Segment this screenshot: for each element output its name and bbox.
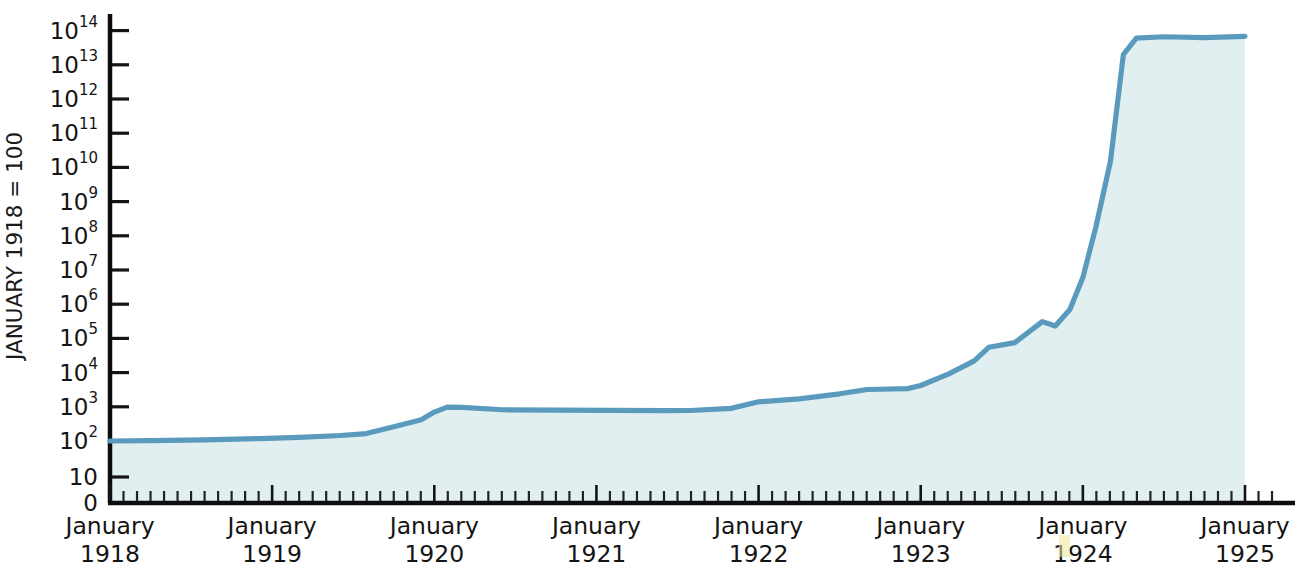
y-axis	[110, 14, 129, 503]
y-tick-label: 106	[59, 286, 98, 317]
y-tick-label: 105	[59, 320, 98, 351]
series-area-german-price-index	[110, 36, 1245, 503]
x-tick-labels: January1918January1919January1920January…	[63, 512, 1289, 568]
x-tick-label-year: 1920	[404, 540, 464, 568]
scan-artifact-tint	[1059, 535, 1070, 557]
x-tick-label-month: January	[550, 512, 641, 540]
y-tick-label: 1012	[50, 81, 98, 112]
y-tick-label: 1010	[50, 149, 98, 180]
x-tick-label-month: January	[388, 512, 479, 540]
x-tick-label-year: 1921	[567, 540, 627, 568]
x-tick-label-year: 1925	[1215, 540, 1275, 568]
y-axis-title: JANUARY 1918 = 100	[2, 132, 27, 362]
x-tick-label-month: January	[1198, 512, 1289, 540]
y-tick-label: 102	[59, 423, 98, 454]
y-tick-label: 109	[59, 183, 98, 214]
x-tick-label-year: 1923	[891, 540, 951, 568]
x-tick-label-year: 1922	[729, 540, 789, 568]
series-area-group	[110, 36, 1245, 503]
y-tick-label: 1011	[50, 115, 98, 146]
y-tick-labels: 0101021031041051061071081091010101110121…	[50, 12, 98, 515]
x-tick-label-year: 1918	[80, 540, 140, 568]
y-tick-label: 1013	[50, 46, 98, 77]
x-tick-label-year: 1919	[242, 540, 302, 568]
y-tick-label: 103	[59, 388, 98, 419]
y-tick-label: 10	[69, 464, 98, 490]
x-tick-label-month: January	[226, 512, 317, 540]
x-tick-label-month: January	[63, 512, 154, 540]
y-axis-title-label: JANUARY 1918 = 100	[2, 132, 27, 362]
y-tick-label: 104	[59, 354, 98, 385]
x-tick-label-month: January	[712, 512, 803, 540]
y-tick-label: 108	[59, 217, 98, 248]
x-tick-label-month: January	[874, 512, 965, 540]
y-tick-label: 107	[59, 252, 98, 283]
x-tick-label-month: January	[1036, 512, 1127, 540]
chart-canvas: JANUARY 1918 = 100 010102103104105106107…	[0, 0, 1295, 568]
y-tick-label: 1014	[50, 12, 98, 43]
hyperinflation-chart: JANUARY 1918 = 100 010102103104105106107…	[0, 0, 1295, 568]
